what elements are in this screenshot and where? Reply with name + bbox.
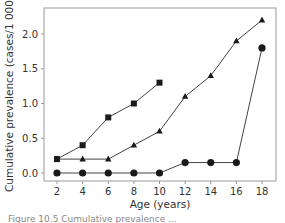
plot-frame <box>44 8 276 181</box>
line-chart: 0.00.51.01.52.0 24681012141618 Cumulativ… <box>0 0 285 212</box>
x-tick-label: 4 <box>79 186 85 197</box>
triangle-marker <box>233 37 239 43</box>
x-tick-label: 2 <box>54 186 60 197</box>
x-tick-label: 16 <box>230 186 243 197</box>
triangle-marker <box>105 156 111 162</box>
x-tick-label: 8 <box>131 186 137 197</box>
triangle-marker <box>259 17 265 23</box>
square-series <box>54 80 163 162</box>
y-tick-label: 0.5 <box>22 133 38 144</box>
data-series <box>53 17 265 177</box>
triangle-series <box>54 17 265 162</box>
x-tick-label: 18 <box>256 186 269 197</box>
y-axis-label: Cumulative prevalence (cases/1 000) <box>3 0 15 192</box>
x-tick-label: 10 <box>153 186 166 197</box>
x-tick-label: 14 <box>204 186 217 197</box>
x-tick-label: 6 <box>105 186 111 197</box>
circle-marker <box>79 169 86 176</box>
circle-marker <box>258 44 265 51</box>
y-tick-label: 1.5 <box>22 63 38 74</box>
square-marker <box>131 101 137 107</box>
circle-marker <box>182 159 189 166</box>
circle-marker <box>233 159 240 166</box>
circle-marker <box>53 169 60 176</box>
y-tick-label: 2.0 <box>22 29 38 40</box>
y-axis-ticks: 0.00.51.01.52.0 <box>22 29 44 179</box>
square-series-line <box>57 83 160 159</box>
x-axis-label: Age (years) <box>130 198 191 210</box>
square-marker <box>80 142 86 148</box>
x-axis-ticks: 24681012141618 <box>54 181 269 197</box>
triangle-marker <box>182 93 188 99</box>
circle-marker <box>105 169 112 176</box>
x-tick-label: 12 <box>179 186 192 197</box>
square-marker <box>157 80 163 86</box>
triangle-series-line <box>57 20 262 159</box>
circle-series <box>53 44 265 176</box>
circle-marker <box>130 169 137 176</box>
y-tick-label: 1.0 <box>22 98 38 109</box>
circle-marker <box>207 159 214 166</box>
circle-marker <box>156 169 163 176</box>
y-tick-label: 0.0 <box>22 168 38 179</box>
square-marker <box>105 114 111 120</box>
triangle-marker <box>131 142 137 148</box>
figure-caption: Figure 10.5 Cumulative prevalence ... <box>8 214 177 223</box>
triangle-marker <box>79 156 85 162</box>
circle-series-line <box>57 48 262 173</box>
